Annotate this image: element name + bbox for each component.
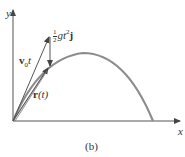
position-label: r(t) bbox=[33, 89, 48, 100]
gravity-label: 12gt2j bbox=[53, 29, 73, 44]
velocity-label: v0t bbox=[19, 55, 31, 69]
x-axis-label: x bbox=[178, 126, 183, 137]
figure-caption: (b) bbox=[85, 141, 98, 152]
projectile-diagram bbox=[0, 0, 185, 157]
velocity-vector bbox=[13, 37, 49, 121]
trajectory-curve bbox=[13, 53, 153, 121]
y-axis-label: y bbox=[6, 8, 11, 19]
